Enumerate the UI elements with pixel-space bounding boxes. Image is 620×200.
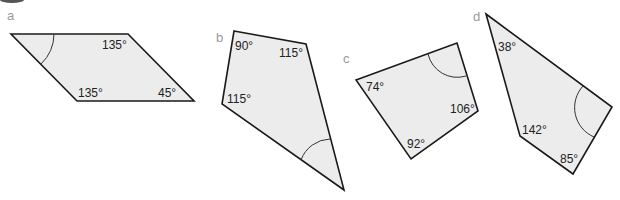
shape-d-angle-1: 38° — [498, 40, 516, 54]
shape-d-angle-2: 142° — [522, 123, 547, 137]
shape-b-letter: b — [216, 30, 223, 45]
shape-b-angle-3: 115° — [227, 92, 251, 106]
shape-c-angle-1: 74° — [366, 80, 384, 94]
shape-c-angle-3: 92° — [407, 137, 425, 151]
shape-a-angle-2: 135° — [78, 86, 103, 100]
shape-d: d 38° 142° 85° — [473, 9, 612, 174]
shape-d-letter: d — [473, 9, 480, 24]
shape-a-letter: a — [7, 8, 15, 23]
shape-c-angle-2: 106° — [450, 102, 475, 116]
quadrilaterals-figure: a 135° 135° 45° b 90° 115° 115° c 74° 10… — [0, 0, 620, 200]
shape-b-angle-2: 115° — [279, 46, 303, 60]
shape-a-angle-1: 135° — [102, 38, 127, 52]
shape-d-angle-3: 85° — [560, 152, 578, 166]
partial-question-marker — [0, 0, 24, 3]
shape-a-angle-3: 45° — [158, 86, 176, 100]
shape-c-letter: c — [343, 51, 350, 66]
shape-a: a 135° 135° 45° — [7, 8, 194, 101]
shape-b: b 90° 115° 115° — [216, 30, 344, 190]
shape-c: c 74° 106° 92° — [343, 43, 478, 159]
shape-d-polygon — [486, 14, 612, 174]
shape-b-angle-1: 90° — [235, 39, 253, 53]
